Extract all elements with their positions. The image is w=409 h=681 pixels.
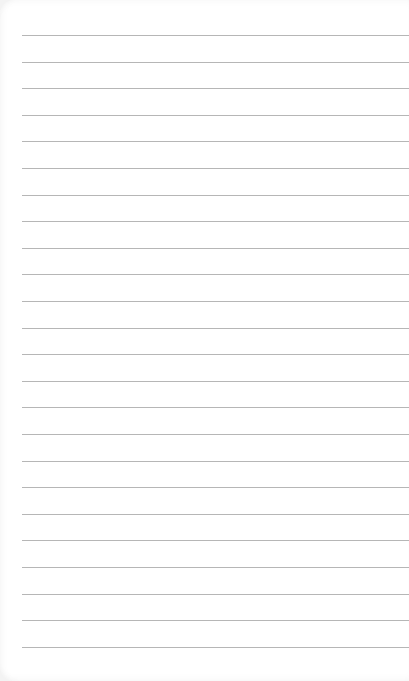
ruled-line xyxy=(22,461,409,462)
ruled-line xyxy=(22,115,409,116)
ruled-line xyxy=(22,594,409,595)
ruled-line xyxy=(22,620,409,621)
ruled-line xyxy=(22,274,409,275)
ruled-line xyxy=(22,407,409,408)
ruled-line xyxy=(22,487,409,488)
ruled-line xyxy=(22,221,409,222)
ruled-line xyxy=(22,168,409,169)
ruled-line xyxy=(22,540,409,541)
ruled-line xyxy=(22,381,409,382)
ruled-line xyxy=(22,141,409,142)
ruled-line xyxy=(22,514,409,515)
ruled-line xyxy=(22,88,409,89)
ruled-line xyxy=(22,62,409,63)
ruled-line xyxy=(22,567,409,568)
ruled-line xyxy=(22,328,409,329)
ruled-line xyxy=(22,248,409,249)
ruled-line xyxy=(22,35,409,36)
ruled-line xyxy=(22,301,409,302)
ruled-line xyxy=(22,195,409,196)
ruled-line xyxy=(22,354,409,355)
ruled-paper-sheet xyxy=(0,0,409,681)
ruled-line xyxy=(22,434,409,435)
ruled-line xyxy=(22,647,409,648)
